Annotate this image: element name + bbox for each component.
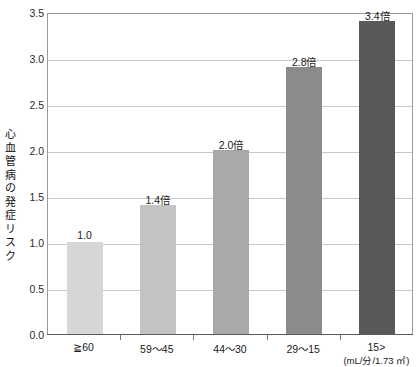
bar [140, 205, 176, 334]
bar [213, 150, 249, 334]
x-axis-tick-mark [340, 335, 341, 340]
x-axis-line [47, 334, 413, 335]
y-axis-tick-label: 1.5 [18, 191, 44, 203]
x-axis-tick-mark [120, 335, 121, 340]
gridline [48, 106, 412, 107]
x-axis-tick-label: 59〜45 [140, 341, 173, 356]
x-axis-tick-label: 44〜30 [213, 341, 246, 356]
y-axis-tick-label: 2.5 [18, 99, 44, 111]
bar-value-label: 1.0 [77, 229, 92, 241]
bar [67, 242, 103, 334]
x-axis-tick-mark [193, 335, 194, 340]
y-axis-tick-label: 0.5 [18, 283, 44, 295]
y-axis-tick-labels: 0.00.51.01.52.02.53.03.5 [14, 0, 44, 367]
y-axis-tick-label: 3.5 [18, 7, 44, 19]
bar-value-label: 1.4倍 [145, 192, 170, 207]
x-axis-unit-label: (mL/分/1.73 ㎡) [343, 353, 409, 367]
x-axis-tick-label: 29〜15 [287, 341, 320, 356]
bar [359, 21, 395, 334]
bar-chart: 心 血 管 病 の 発 症 リ ス ク 0.00.51.01.52.02.53.… [0, 0, 418, 367]
x-axis-tick-label: 15> [367, 341, 385, 353]
gridline [48, 60, 412, 61]
y-axis-tick-label: 3.0 [18, 53, 44, 65]
y-axis-tick-label: 0.0 [18, 329, 44, 341]
bar [286, 67, 322, 334]
x-axis-tick-mark [267, 335, 268, 340]
y-axis-tick-label: 2.0 [18, 145, 44, 157]
bar-value-label: 2.8倍 [292, 54, 317, 69]
plot-area: 1.01.4倍2.0倍2.8倍3.4倍 [47, 13, 413, 335]
bar-value-label: 3.4倍 [365, 8, 390, 23]
bar-value-label: 2.0倍 [219, 137, 244, 152]
y-axis-tick-label: 1.0 [18, 237, 44, 249]
x-axis-tick-label: ≧60 [73, 341, 93, 353]
